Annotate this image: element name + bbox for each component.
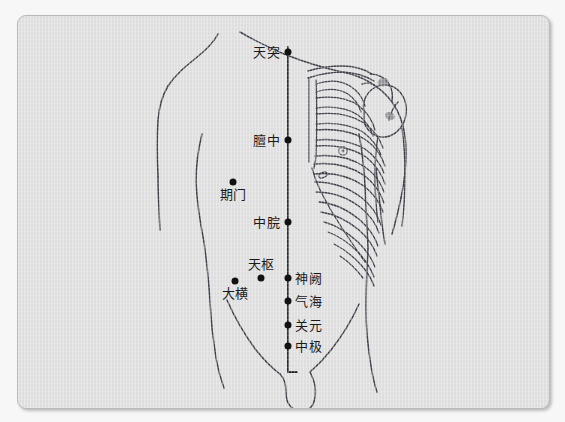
acupoint-dot-qimen bbox=[230, 179, 237, 186]
acupoint-dot-qihai bbox=[285, 298, 292, 305]
acupoint-label-qimen: 期门 bbox=[220, 188, 247, 201]
body-outline-left bbox=[157, 34, 218, 242]
acupoint-dot-tianshu bbox=[258, 275, 265, 282]
groin-contour bbox=[280, 372, 315, 408]
acupoint-dot-zhongji bbox=[285, 343, 292, 350]
acupoint-dot-tiantu bbox=[285, 49, 292, 56]
acupoint-dot-zhongwan bbox=[285, 219, 292, 226]
anatomy-illustration bbox=[18, 16, 549, 408]
acupoint-label-danzhong: 膻中 bbox=[253, 134, 280, 147]
rib-cage bbox=[309, 78, 385, 286]
acupoint-label-guanyuan: 关元 bbox=[295, 319, 322, 332]
acupoint-label-zhongwan: 中脘 bbox=[253, 216, 280, 229]
rib-foramen bbox=[318, 171, 328, 179]
acupoint-dot-daheng bbox=[232, 278, 239, 285]
diagram-panel: 天突 膻中 期门 中脘 天枢 大横 神阙 气海 关元 中极 bbox=[17, 15, 550, 409]
acupoint-dot-danzhong bbox=[285, 137, 292, 144]
acupoint-label-qihai: 气海 bbox=[295, 295, 322, 308]
acupoint-dot-guanyuan bbox=[285, 322, 292, 329]
figure-root: 天突 膻中 期门 中脘 天枢 大横 神阙 气海 关元 中极 bbox=[0, 0, 565, 422]
acupoint-label-shenque: 神阙 bbox=[295, 272, 322, 285]
acupoint-dot-shenque bbox=[285, 275, 292, 282]
acupoint-label-tianshu: 天枢 bbox=[248, 258, 275, 271]
acupoint-label-tiantu: 天突 bbox=[253, 46, 280, 59]
acupoint-label-daheng: 大横 bbox=[222, 287, 249, 300]
joint-shading bbox=[376, 76, 396, 121]
acupoint-label-zhongji: 中极 bbox=[295, 340, 322, 353]
